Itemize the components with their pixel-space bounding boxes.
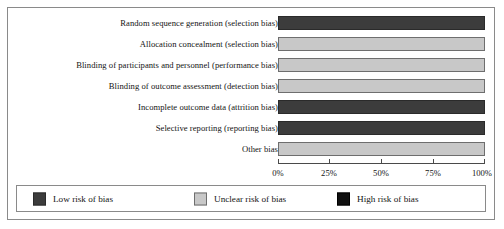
x-axis: [278, 163, 485, 164]
risk-of-bias-row: Allocation concealment (selection bias): [8, 37, 494, 51]
axis-tick: [278, 159, 279, 164]
bar-low-risk: [278, 100, 485, 114]
axis-tick-label: 100%: [472, 168, 492, 178]
risk-of-bias-row: Selective reporting (reporting bias): [8, 121, 494, 135]
legend-item-low-risk: Low risk of bias: [33, 192, 113, 205]
bar-unclear-risk: [278, 142, 485, 156]
bar-track: [278, 37, 485, 51]
legend-swatch-unclear-risk-icon: [194, 192, 207, 205]
bar-unclear-risk: [278, 79, 485, 93]
risk-of-bias-row: Random sequence generation (selection bi…: [8, 16, 494, 30]
axis-tick: [484, 159, 485, 164]
axis-tick-label: 50%: [373, 168, 389, 178]
row-label: Blinding of participants and personnel (…: [76, 60, 278, 70]
bar-unclear-risk: [278, 37, 485, 51]
row-label: Blinding of outcome assessment (detectio…: [109, 81, 278, 91]
legend-item-unclear-risk: Unclear risk of bias: [194, 192, 286, 205]
bar-track: [278, 100, 485, 114]
chart-legend: Low risk of bias Unclear risk of bias Hi…: [16, 185, 486, 212]
row-label: Incomplete outcome data (attrition bias): [138, 102, 278, 112]
risk-of-bias-plot-area: Random sequence generation (selection bi…: [8, 8, 494, 176]
row-label: Allocation concealment (selection bias): [140, 39, 278, 49]
bar-low-risk: [278, 16, 485, 30]
bar-unclear-risk: [278, 58, 485, 72]
axis-tick: [381, 159, 382, 164]
row-label: Random sequence generation (selection bi…: [120, 18, 278, 28]
axis-tick-label: 25%: [321, 168, 337, 178]
risk-of-bias-row: Incomplete outcome data (attrition bias): [8, 100, 494, 114]
axis-tick: [329, 159, 330, 164]
bar-track: [278, 58, 485, 72]
axis-tick-label: 75%: [425, 168, 441, 178]
legend-label: High risk of bias: [357, 194, 419, 204]
legend-swatch-high-risk-icon: [337, 192, 350, 205]
row-label: Other bias: [242, 144, 278, 154]
legend-item-high-risk: High risk of bias: [337, 192, 419, 205]
legend-swatch-low-risk-icon: [33, 192, 46, 205]
legend-label: Low risk of bias: [53, 194, 113, 204]
risk-of-bias-row: Blinding of outcome assessment (detectio…: [8, 79, 494, 93]
axis-tick-label: 0%: [272, 168, 283, 178]
legend-label: Unclear risk of bias: [214, 194, 286, 204]
bar-track: [278, 79, 485, 93]
risk-of-bias-figure: Random sequence generation (selection bi…: [7, 7, 495, 220]
axis-tick: [433, 159, 434, 164]
bar-track: [278, 121, 485, 135]
bar-low-risk: [278, 121, 485, 135]
row-label: Selective reporting (reporting bias): [156, 123, 278, 133]
bar-track: [278, 16, 485, 30]
risk-of-bias-row: Blinding of participants and personnel (…: [8, 58, 494, 72]
bar-track: [278, 142, 485, 156]
risk-of-bias-row: Other bias: [8, 142, 494, 156]
